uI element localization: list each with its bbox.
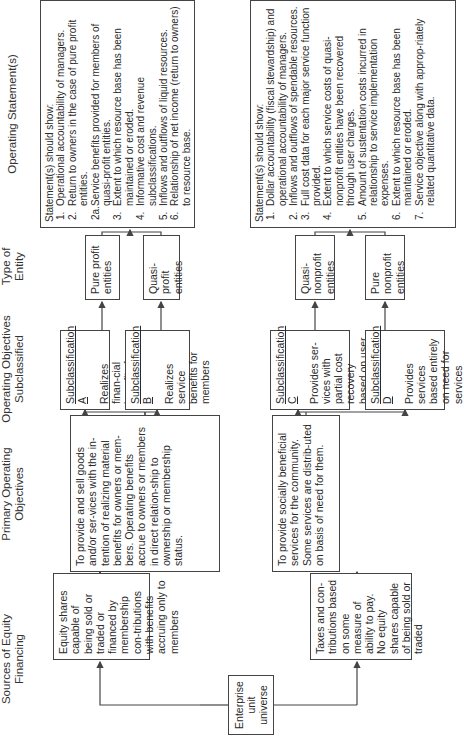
item-text: Inflows and outflows of liquid resources… [158, 29, 169, 206]
statement-profit-box: Statement(s) should show: 1.Operational … [40, 0, 195, 228]
item-text: Extent to which resource base has been m… [391, 28, 413, 206]
item-number: 6. [169, 212, 180, 220]
item-number: 5. [158, 212, 169, 220]
item-text: Informative cost and revenue subclassifi… [135, 77, 157, 206]
statement-item: 3.Extent to which resource base has been… [112, 6, 135, 222]
primary-objective-profit-box: To provide and sell goods and/or ser-vic… [70, 415, 220, 572]
item-number: 2a. [90, 206, 101, 220]
entity-pure-nonprofit-label: Pure nonprofit entities [369, 253, 406, 294]
statement-item: 6.Extent to which resource base has been… [391, 6, 414, 222]
subclassification-b-box: Subclassification B Realizes service ben… [125, 330, 190, 410]
item-number: 4. [322, 212, 333, 220]
item-number: 1. [265, 212, 276, 220]
item-text: Service benefits provided for members of… [90, 24, 112, 206]
item-number: 5. [357, 212, 368, 220]
primary-objective-nonprofit-box: To provide socially beneficial services … [272, 415, 340, 572]
header-sources-of-equity-financing: Sources of Equity Financing [0, 594, 26, 724]
header-type-of-entity: Type of Entity [0, 234, 26, 299]
item-text: Extent to which service costs of quasi-n… [322, 36, 356, 206]
entity-quasi-profit-label: Quasi-profit entities [147, 261, 184, 294]
item-text: Relationship of net income (return to ow… [169, 6, 191, 206]
header-operating-statements: Operating Statement(s) [6, 34, 19, 194]
subclassification-c-box: Subclassification C Provides ser-vices w… [270, 330, 350, 410]
statement-item: 2.Return to owners in the case of pure p… [67, 6, 90, 222]
equity-source-nonprofit-text: Taxes and con-tributions based on some m… [314, 580, 424, 654]
item-text: Extent to which resource base has been m… [112, 28, 134, 206]
statement-nonprofit-intro: Statement(s) should show: [254, 6, 265, 222]
equity-source-nonprofit-box: Taxes and con-tributions based on some m… [310, 573, 412, 660]
statement-nonprofit-box: Statement(s) should show: 1.Dollar accou… [250, 0, 456, 228]
header-operating-objectives-subclassified: Operating Objectives Subclassified [0, 314, 26, 424]
item-text: Amount of sustentation costs incurred in… [357, 28, 391, 206]
item-number: 2. [67, 212, 78, 220]
statement-item: 4.Informative cost and revenue subclassi… [135, 6, 158, 222]
statement-item: 3.Full cost data for each major service … [300, 6, 323, 222]
enterprise-unit-universe-box: Enterprise unit universe [228, 675, 274, 735]
subclassification-c-title: Subclassification C [274, 336, 299, 404]
statement-item: 1.Operational accountability of managers… [55, 6, 66, 222]
statement-item: 4.Extent to which service costs of quasi… [322, 6, 356, 222]
item-text: Inflows and outflows of spendable resour… [288, 6, 299, 206]
item-number: 2. [288, 212, 299, 220]
subclassification-a-box: Subclassification A Realizes finan-cial … [60, 330, 110, 410]
equity-source-profit-text: Equity shares capable of being sold or t… [57, 580, 180, 654]
enterprise-unit-universe-label: Enterprise unit universe [233, 681, 269, 729]
entity-pure-profit-box: Pure profit entities [85, 235, 120, 300]
item-text: Operational accountability of managers. [55, 30, 66, 206]
statement-profit-intro: Statement(s) should show: [44, 6, 55, 222]
header-primary-operating-objectives: Primary Operating Objectives [0, 434, 26, 554]
primary-objective-nonprofit-text: To provide socially beneficial services … [276, 424, 325, 566]
entity-pure-profit-label: Pure profit entities [89, 246, 113, 294]
item-number: 1. [55, 212, 66, 220]
item-number: 3. [112, 212, 123, 220]
subclassification-d-title: Subclassification D [369, 336, 394, 404]
statement-item: 1.Dollar accountability (fiscal stewards… [265, 6, 288, 222]
statement-item: 5.Amount of sustentation costs incurred … [357, 6, 391, 222]
entity-pure-nonprofit-box: Pure nonprofit entities [365, 235, 405, 300]
subclassification-d-text: Provides services based entirely on need… [403, 336, 464, 404]
statement-item: 5.Inflows and outflows of liquid resourc… [158, 6, 169, 222]
item-text: Return to owners in the case of pure pro… [67, 20, 89, 206]
item-text: Full cost data for each major service fu… [300, 8, 322, 206]
subclassification-a-title: Subclassification A [64, 336, 89, 404]
item-text: Service objective along with approp-riat… [414, 19, 436, 206]
equity-source-profit-box: Equity shares capable of being sold or t… [53, 573, 150, 660]
item-number: 4. [135, 212, 146, 220]
subclassification-b-title: Subclassification B [129, 336, 154, 404]
item-number: 3. [300, 212, 311, 220]
entity-quasi-nonprofit-box: Quasi-nonprofit entities [295, 235, 335, 300]
statement-item: 2a.Service benefits provided for members… [90, 6, 113, 222]
statement-profit-list: 1.Operational accountability of managers… [55, 6, 192, 222]
statement-item: 6.Relationship of net income (return to … [169, 6, 192, 222]
subclassification-b-text: Realizes service benefits for members [163, 336, 212, 404]
entity-quasi-nonprofit-label: Quasi-nonprofit entities [299, 253, 336, 294]
item-number: 6. [391, 212, 402, 220]
statement-nonprofit-list: 1.Dollar accountability (fiscal stewards… [265, 6, 436, 222]
item-number: 7. [414, 212, 425, 220]
statement-item: 7.Service objective along with approp-ri… [414, 6, 437, 222]
statement-item: 2.Inflows and outflows of spendable reso… [288, 6, 299, 222]
primary-objective-profit-text: To provide and sell goods and/or ser-vic… [74, 427, 184, 566]
entity-quasi-profit-box: Quasi-profit entities [143, 235, 180, 300]
subclassification-d-box: Subclassification D Provides services ba… [365, 330, 445, 410]
item-text: Dollar accountability (fiscal stewardshi… [265, 9, 287, 206]
